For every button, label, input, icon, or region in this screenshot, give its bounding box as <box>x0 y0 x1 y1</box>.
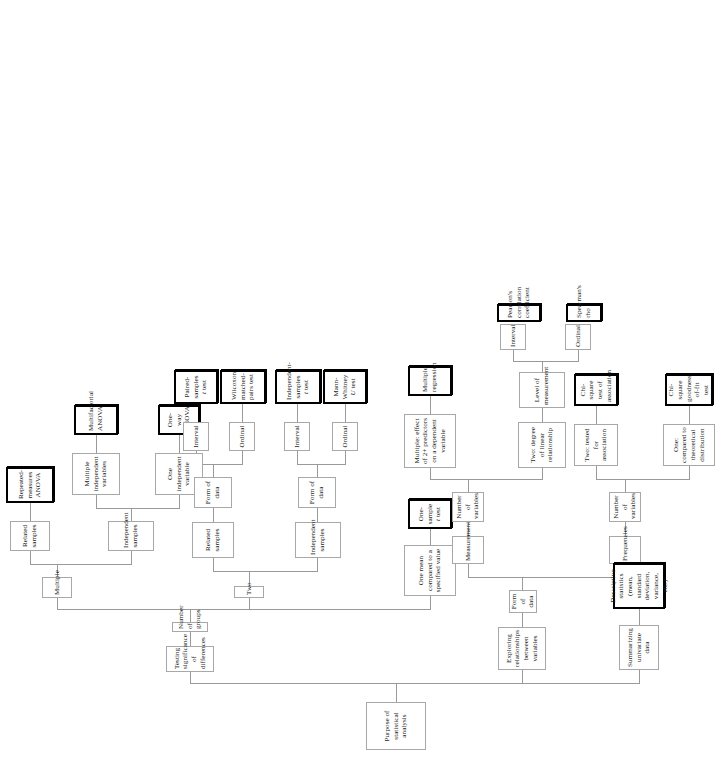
node-two-indep-ordinal[interactable]: Ordinal <box>332 422 358 451</box>
edge-exploring-form <box>522 613 523 627</box>
edge-onetheory-gof <box>689 406 690 424</box>
node-number-of-groups[interactable]: Number of groups <box>172 622 208 632</box>
edge-two-spine <box>213 571 317 572</box>
edge-groups-two <box>249 598 250 610</box>
edge-explform-measurements <box>468 564 469 578</box>
edge-groups-out <box>190 610 191 622</box>
edge-form2-ordinal <box>345 451 346 465</box>
edge-lom-interval <box>513 350 514 362</box>
node-lom-interval[interactable]: Interval <box>500 324 526 350</box>
node-one-sample-t-test[interactable]: One-sample t test <box>408 499 452 529</box>
node-two-tested-association-label: Two: tested for association <box>583 427 609 463</box>
edge-multpred-multreg <box>430 396 431 414</box>
node-two-independent-samples-label: Independent samples <box>309 525 326 555</box>
node-two-indep-form-of-data[interactable]: Form of data <box>298 477 336 508</box>
edge-root-spine <box>190 683 639 684</box>
node-two-independent-samples[interactable]: Independent samples <box>295 522 341 558</box>
node-descriptive-statistics-label: Descriptive statistics (mean, standard d… <box>609 567 669 605</box>
edge-oneiv-oneway <box>179 435 180 453</box>
edge-numvars2-twoassoc <box>596 466 597 480</box>
edge-indep-multiv <box>96 495 97 509</box>
node-pearsons-correlation[interactable]: Pearson's correlation coefficient <box>497 304 541 322</box>
node-chi-square-association-label: Chi-square test of association <box>579 378 614 402</box>
node-two-related-ordinal-label: Ordinal <box>238 425 247 448</box>
node-two-indep-interval[interactable]: Interval <box>284 422 310 451</box>
node-one-theoretical-distribution[interactable]: One: compared to theoretical distributio… <box>663 424 715 466</box>
edge-multiple-related <box>30 551 31 565</box>
node-multiple[interactable]: Multiple <box>42 577 72 598</box>
edge-form2-spine <box>297 464 345 465</box>
node-paired-samples-t-test[interactable]: Paired-samples t test <box>174 370 218 404</box>
node-descriptive-statistics[interactable]: Descriptive statistics (mean, standard d… <box>613 563 665 609</box>
node-level-of-measurement-label: Level of measurement <box>533 375 550 405</box>
edge-form1-ordinal <box>242 451 243 465</box>
node-testing-significance[interactable]: Testing significance of differences <box>166 646 214 672</box>
edge-numvars1-multiple <box>430 468 431 480</box>
node-meas-number-of-variables-label: Number of variables <box>455 495 481 519</box>
edge-numvars2-spine <box>596 479 689 480</box>
node-multiple-iv[interactable]: Multiple independent variables <box>72 453 120 495</box>
edge-form2-interval <box>297 451 298 465</box>
edge-summarizing-descriptive <box>639 609 640 625</box>
node-one-mean-specified-value[interactable]: One mean compared to a specified value <box>404 545 456 596</box>
node-spearmans-rho-label: Spearman's rho <box>575 308 592 318</box>
node-lom-ordinal-label: Ordinal <box>574 327 583 347</box>
edge-indep-spine <box>96 508 179 509</box>
node-measurements[interactable]: Measurements <box>452 536 484 564</box>
node-summarizing-univariate[interactable]: Summarizing univariate data <box>619 625 659 670</box>
node-explore-form-of-data[interactable]: Form of data <box>509 590 537 613</box>
node-chi-square-association[interactable]: Chi-square test of association <box>574 374 618 406</box>
node-one-sample-t-test-label: One-sample t test <box>417 503 443 525</box>
edge-two-independent <box>317 558 318 572</box>
node-repeated-measures-anova[interactable]: Repeated-measures ANOVA <box>6 467 54 503</box>
node-root[interactable]: Purpose of statistical analysis <box>366 702 426 750</box>
node-two[interactable]: Two <box>234 586 264 598</box>
edge-explform-spine <box>468 577 625 578</box>
node-frequencies-label: Frequencies <box>621 539 630 561</box>
node-pearsons-correlation-label: Pearson's correlation coefficient <box>506 308 532 318</box>
node-exploring-relationships[interactable]: Exploring relationships between variable… <box>498 627 546 670</box>
edge-lom-ordinal <box>578 350 579 362</box>
node-two-tested-association[interactable]: Two: tested for association <box>574 424 618 466</box>
node-paired-samples-t-test-label: Paired-samples t test <box>183 374 209 400</box>
edge-groups-spine <box>57 609 430 610</box>
edge-indep-oneiv <box>179 495 180 509</box>
node-multiple-iv-label: Multiple independent variables <box>83 456 109 492</box>
edge-form2-out <box>317 465 318 477</box>
node-mult-related-samples[interactable]: Related samples <box>10 521 50 551</box>
edge-two-related <box>213 558 214 572</box>
node-level-of-measurement[interactable]: Level of measurement <box>519 372 565 408</box>
node-two-related-interval[interactable]: Interval <box>183 422 209 451</box>
node-repeated-measures-anova-label: Repeated-measures ANOVA <box>17 471 43 499</box>
node-chi-square-goodness-of-fit[interactable]: Chi-square goodness-of-fit test <box>665 374 713 406</box>
node-multiple-regression[interactable]: Multiple regression <box>408 366 452 396</box>
node-lom-ordinal[interactable]: Ordinal <box>565 324 591 350</box>
node-explore-form-of-data-label: Form of data <box>510 593 536 610</box>
edge-numvars1-spine <box>430 479 542 480</box>
edge-twoassoc-chisq <box>596 406 597 424</box>
node-multifactorial-anova[interactable]: Multifactorial ANOVA <box>74 405 118 435</box>
node-two-indep-form-of-data-label: Form of data <box>308 480 325 505</box>
node-chi-square-goodness-of-fit-label: Chi-square goodness-of-fit test <box>667 378 710 402</box>
node-spearmans-rho[interactable]: Spearman's rho <box>566 304 602 322</box>
node-two-related-ordinal[interactable]: Ordinal <box>229 422 255 451</box>
node-multiple-predictors[interactable]: Multiple: effect of 2+ predictors on a d… <box>404 414 456 468</box>
node-wilcoxon-matched-pairs-test[interactable]: Wilcoxon matched-pairs test <box>220 370 266 404</box>
node-two-related-form-of-data[interactable]: Form of data <box>194 477 232 508</box>
node-two-degree-linear[interactable]: Two: degree of linear relationship <box>518 422 566 468</box>
node-multiple-predictors-label: Multiple: effect of 2+ predictors on a d… <box>413 417 448 465</box>
node-mult-independent-samples[interactable]: Independent samples <box>108 521 154 551</box>
edge-onemean-onesample <box>430 529 431 545</box>
node-two-related-form-of-data-label: Form of data <box>204 480 221 505</box>
node-independent-samples-t-test[interactable]: Independent-samples t test <box>275 370 321 404</box>
edge-ordinal-wilcoxon <box>242 404 243 422</box>
node-frequencies[interactable]: Frequencies <box>609 536 641 564</box>
edge-interval2-indept <box>297 404 298 422</box>
node-meas-number-of-variables[interactable]: Number of variables <box>452 492 484 522</box>
node-two-related-samples[interactable]: Related samples <box>192 522 234 558</box>
edge-root-exploring <box>522 670 523 684</box>
node-mann-whitney-u-test[interactable]: Mann-Whitney U test <box>323 370 367 404</box>
node-freq-number-of-variables[interactable]: Number of variables <box>609 492 641 522</box>
edge-twodeg-lom <box>542 408 543 422</box>
